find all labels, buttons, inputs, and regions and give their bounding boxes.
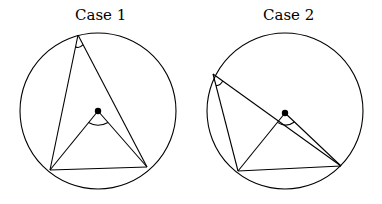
- central-angle-arc: [89, 122, 109, 125]
- radius-right: [285, 113, 341, 166]
- chord-left: [213, 74, 238, 171]
- chord-right: [78, 35, 147, 167]
- chord-left: [50, 35, 78, 170]
- radius-left: [238, 113, 285, 171]
- base-chord: [238, 166, 341, 171]
- base-chord: [50, 167, 147, 170]
- inscribed-angle-arc: [76, 45, 84, 48]
- chord-right: [213, 74, 341, 166]
- radius-left: [50, 111, 98, 170]
- center-point: [282, 110, 288, 116]
- diagram-canvas: [0, 0, 382, 204]
- inscribed-angle-arc: [216, 81, 223, 86]
- case-2-figure: [207, 33, 363, 189]
- center-point: [95, 108, 101, 114]
- case-1-figure: [20, 33, 176, 189]
